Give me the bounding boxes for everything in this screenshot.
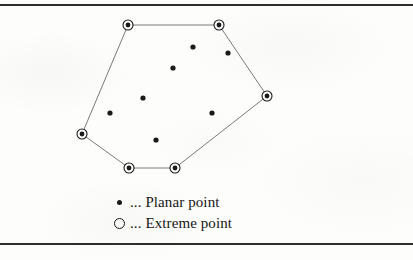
planar-point (153, 137, 158, 142)
extreme-point-core (173, 166, 178, 171)
legend-row-extreme-point: ... Extreme point (108, 213, 308, 234)
legend-row-planar-point: ... Planar point (108, 192, 308, 213)
convex-hull-polygon (82, 25, 267, 168)
legend: ... Planar point ... Extreme point (108, 192, 308, 234)
extreme-point-icon (108, 218, 130, 229)
planar-point (225, 50, 230, 55)
legend-label-extreme-point: ... Extreme point (130, 215, 232, 232)
planar-point (209, 110, 214, 115)
extreme-point-core (80, 132, 85, 137)
extreme-points-group (77, 20, 272, 173)
extreme-point-core (217, 23, 222, 28)
planar-point (170, 65, 175, 70)
extreme-point-core (265, 94, 270, 99)
legend-label-planar-point: ... Planar point (130, 194, 220, 211)
extreme-point-core (127, 166, 132, 171)
extreme-point-core (126, 23, 131, 28)
planar-point (140, 95, 145, 100)
planar-points-group (107, 44, 230, 142)
planar-point (107, 110, 112, 115)
convex-hull-figure: ... Planar point ... Extreme point (0, 0, 413, 260)
planar-point (190, 44, 195, 49)
planar-point-icon (108, 200, 130, 205)
